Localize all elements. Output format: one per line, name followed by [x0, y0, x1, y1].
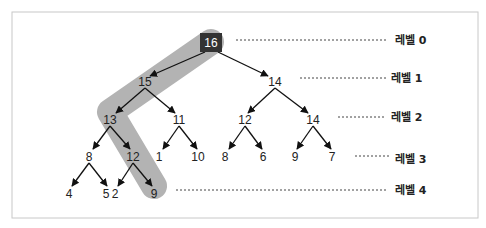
node-value: 5	[103, 187, 110, 201]
tree-edge-arrow	[118, 163, 133, 186]
node-value: 7	[329, 150, 336, 164]
tree-edge-arrow	[72, 163, 89, 186]
node-value: 8	[86, 150, 93, 164]
node-value: 4	[66, 187, 73, 201]
level-0-indicator: 레벨 0	[236, 33, 427, 47]
level-4-indicator: 레벨 4	[176, 183, 427, 197]
tree-node: 4	[66, 187, 73, 201]
level-labels: 레벨 0레벨 1레벨 2레벨 3레벨 4	[176, 33, 427, 197]
node-value: 9	[292, 150, 299, 164]
tree-node: 15	[138, 75, 152, 89]
tree-node: 6	[260, 150, 267, 164]
node-value: 15	[138, 75, 152, 89]
tree-node: 13	[103, 113, 117, 127]
tree-node: 11	[173, 113, 186, 127]
level-3-indicator: 레벨 3	[355, 152, 426, 166]
tree-edge-arrow	[248, 88, 275, 113]
node-value: 12	[126, 150, 140, 164]
tree-node: 8	[86, 150, 93, 164]
tree-node: 10	[191, 150, 205, 164]
tree-edge-arrow	[245, 126, 262, 149]
tree-edge-arrow	[163, 126, 179, 149]
root-node: 16	[200, 33, 222, 52]
highlight-band	[110, 42, 211, 186]
node-value: 14	[268, 75, 282, 89]
max-path-highlight	[110, 42, 211, 186]
tree-edge-arrow	[179, 126, 197, 149]
tree-edge-arrow	[89, 163, 107, 186]
node-value: 10	[191, 150, 205, 164]
tree-edge-arrow	[218, 52, 268, 76]
node-value: 12	[238, 113, 252, 127]
tree-node: 5	[103, 187, 110, 201]
tree-edge-arrow	[297, 126, 313, 149]
tree-node: 12	[238, 113, 252, 127]
tree-node: 14	[268, 75, 282, 89]
level-label: 레벨 4	[395, 183, 427, 197]
node-value: 14	[306, 113, 320, 127]
level-2-indicator: 레벨 2	[338, 110, 422, 124]
tree-node: 9	[151, 187, 158, 201]
level-label: 레벨 1	[391, 71, 422, 85]
level-label: 레벨 3	[395, 152, 426, 166]
node-value: 11	[173, 113, 186, 127]
tree-node: 9	[292, 150, 299, 164]
tree-node: 2	[112, 187, 119, 201]
tree-node: 1	[156, 150, 163, 164]
node-value: 1	[156, 150, 163, 164]
node-value: 13	[103, 113, 117, 127]
node-value: 16	[204, 36, 218, 50]
node-value: 2	[112, 187, 119, 201]
node-value: 6	[260, 150, 267, 164]
node-value: 9	[151, 187, 158, 201]
node-value: 8	[222, 150, 229, 164]
tree-edge-arrow	[229, 126, 245, 149]
tree-edge-arrow	[93, 126, 110, 149]
level-1-indicator: 레벨 1	[300, 71, 422, 85]
heap-tree-diagram: 1615141311121481211086974529 레벨 0레벨 1레벨 …	[0, 0, 486, 228]
tree-node: 7	[329, 150, 336, 164]
tree-node: 14	[306, 113, 320, 127]
level-label: 레벨 0	[395, 33, 427, 47]
tree-node: 12	[126, 150, 140, 164]
diagram-canvas: 1615141311121481211086974529 레벨 0레벨 1레벨 …	[0, 0, 486, 228]
level-label: 레벨 2	[391, 110, 422, 124]
tree-edge-arrow	[275, 88, 308, 113]
tree-node: 8	[222, 150, 229, 164]
tree-edge-arrow	[313, 126, 331, 149]
